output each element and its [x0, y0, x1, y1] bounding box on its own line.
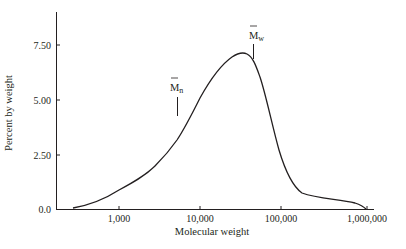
x-tick-label: 10,000	[186, 213, 214, 224]
y-tick-label: 0.0	[39, 204, 52, 215]
y-tick-label: 7.50	[34, 40, 52, 51]
mn-label: Mn	[170, 82, 183, 95]
y-tick-label: 2.50	[34, 150, 52, 161]
chart: 7.50 5.00 2.50 0.0 1,000 10,000 100,000 …	[0, 0, 406, 249]
mw-label: Mw	[249, 30, 264, 43]
mn-annotation: Mn	[170, 78, 183, 116]
axes	[56, 12, 374, 210]
x-axis-title: Molecular weight	[175, 226, 249, 237]
x-tick-label: 1,000	[108, 213, 131, 224]
x-tick-label: 1,000,000	[347, 213, 387, 224]
y-tick-label: 5.00	[34, 95, 52, 106]
x-tick-label: 100,000	[265, 213, 298, 224]
distribution-curve	[73, 53, 366, 209]
mw-annotation: Mw	[249, 26, 264, 59]
y-axis-title: Percent by weight	[3, 75, 14, 151]
